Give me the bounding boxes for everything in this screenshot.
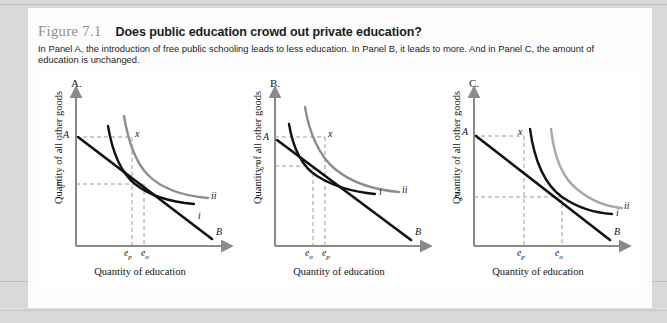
panel-b-label-curve-ii: ii [402,184,408,195]
figure-header: Figure 7.1Does public education crowd ou… [38,22,638,66]
panel-c-tick-eo: eo [555,248,563,261]
panel-a-x-axis-label: Quantity of education [40,266,240,277]
panel-a: A. Quantity of all other goods Quantity … [40,74,240,286]
scan-rule-bottom [0,310,667,311]
panel-c: C. Quantity of all other goods Quantity … [438,74,638,286]
panel-b-label-B: B [415,226,421,237]
panel-a-point-x: x [135,128,139,139]
panel-a-label-A: A [63,129,69,140]
panel-c-label-curve-i: i [616,207,619,218]
panel-c-budget-line [476,136,610,240]
panel-c-point-x: x [518,126,522,137]
panel-c-x-axis-label: Quantity of education [438,266,638,277]
panel-c-label-curve-ii: ii [624,200,630,211]
panel-a-tick-co: co [57,177,65,190]
panel-b-tick-ep: ep [322,248,330,261]
panel-c-label-A: A [462,126,468,137]
panel-a-plot [40,74,240,264]
panel-c-label-B: B [614,226,620,237]
panel-a-tick-eo: eo [141,248,149,261]
panel-c-plot [438,74,638,264]
panel-a-label-curve-i: i [198,210,201,221]
panel-b-plot [239,74,439,264]
figure-title: Does public education crowd out private … [116,25,422,39]
panel-b-x-axis-label: Quantity of education [239,266,439,277]
panel-c-tick-co: co [455,190,463,203]
figure-page: Figure 7.1Does public education crowd ou… [0,0,667,323]
figure-number: Figure 7.1 [38,23,102,40]
panel-b-label-curve-i: i [379,186,382,197]
figure-caption: In Panel A, the introduction of free pub… [38,43,636,66]
panel-c-curve-i [530,129,612,214]
panel-b: B. Quantity of all other goods Quantity … [239,74,439,286]
panel-b-tick-co: co [256,159,264,172]
panel-a-label-B: B [216,226,222,237]
panel-container: A. Quantity of all other goods Quantity … [38,74,640,286]
panel-a-tick-ep: ep [124,248,132,261]
panel-c-tick-ep: ep [517,248,525,261]
panel-b-label-A: A [263,131,269,142]
panel-a-label-curve-ii: ii [211,190,217,201]
panel-b-tick-eo: eo [305,248,313,261]
panel-b-curve-ii [305,107,399,192]
scan-rule-top [0,4,667,5]
panel-a-budget-line [78,137,212,239]
panel-b-point-x: x [328,128,332,139]
